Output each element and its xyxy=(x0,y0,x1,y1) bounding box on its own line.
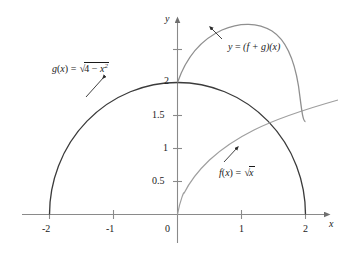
y-tick-label-2: 2 xyxy=(164,76,169,86)
curve-f-sqrt xyxy=(178,100,339,215)
y-axis-label: y xyxy=(165,14,169,24)
figure-canvas: -2 -1 0 1 2 0.5 1 1.5 2 y x g(x) = √4 − … xyxy=(0,0,346,253)
fg-label-expression: (f + g)(x) xyxy=(243,41,280,52)
fg-label-equals: = xyxy=(235,41,241,52)
f-label-leader-line xyxy=(224,148,237,162)
x-axis-label: x xyxy=(329,219,333,229)
g-label-equals: = xyxy=(71,63,77,74)
g-label-radicand-lead: 4 − xyxy=(84,63,100,74)
plot-area xyxy=(0,0,346,253)
f-label-radical: √x xyxy=(244,166,255,178)
g-label-radical: √4 − x2 xyxy=(79,62,109,74)
x-tick-label--2: -2 xyxy=(42,224,50,234)
curve-f-plus-g xyxy=(178,24,306,121)
g-label-paren-close: ) xyxy=(65,63,68,74)
fg-label-leader-line xyxy=(211,28,222,39)
g-label-radicand-exponent: 2 xyxy=(104,62,108,70)
f-curve-label: f(x) = √x xyxy=(219,166,255,178)
y-tick-label-1: 1 xyxy=(163,143,168,153)
x-tick-label-0: 0 xyxy=(165,224,170,234)
y-tick-label-1p5: 1.5 xyxy=(152,110,165,120)
y-tick-label-0p5: 0.5 xyxy=(152,176,165,186)
x-tick-label-2: 2 xyxy=(303,224,308,234)
x-tick-label--1: -1 xyxy=(106,224,114,234)
f-label-radicand-variable: x xyxy=(249,167,253,178)
fg-curve-label: y = (f + g)(x) xyxy=(228,41,280,52)
f-label-equals: = xyxy=(235,167,241,178)
g-label-leader-line xyxy=(86,77,104,97)
g-curve-label: g(x) = √4 − x2 xyxy=(52,62,109,74)
fg-label-y: y xyxy=(228,41,232,52)
f-label-paren-close: ) xyxy=(230,167,233,178)
x-tick-label-1: 1 xyxy=(239,224,244,234)
